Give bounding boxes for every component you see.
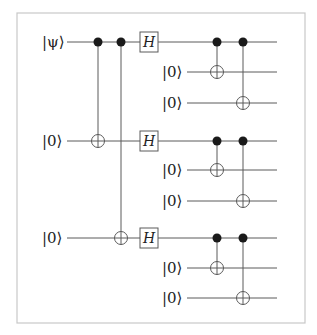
control-dot-icon — [239, 234, 248, 243]
control-dot-icon — [213, 234, 222, 243]
quantum-circuit: |ψ⟩|0⟩|0⟩|0⟩|0⟩|0⟩|0⟩|0⟩|0⟩ HHH — [0, 0, 317, 335]
cnot-gate — [237, 234, 250, 305]
cnot-gate — [237, 137, 250, 208]
target-oplus-icon — [237, 292, 250, 305]
qubit-label: |0⟩ — [162, 161, 182, 179]
qubit-label: |0⟩ — [42, 229, 62, 247]
target-oplus-icon — [237, 195, 250, 208]
diagram-frame — [17, 13, 305, 323]
target-oplus-icon — [211, 164, 224, 177]
cnot-gate — [237, 38, 250, 110]
target-oplus-icon — [211, 262, 224, 275]
qubit-label: |0⟩ — [162, 259, 182, 277]
target-oplus-icon — [237, 97, 250, 110]
control-dot-icon — [213, 38, 222, 47]
qubit-label: |0⟩ — [162, 289, 182, 307]
target-oplus-icon — [211, 66, 224, 79]
qubit-label: |ψ⟩ — [42, 33, 65, 51]
cnot-gate — [211, 234, 224, 275]
hadamard-gate: H — [140, 32, 158, 52]
hadamard-gate: H — [140, 228, 158, 248]
qubit-label: |0⟩ — [42, 132, 62, 150]
control-dot-icon — [213, 137, 222, 146]
control-dot-icon — [94, 38, 103, 47]
cnot-gate — [92, 38, 105, 148]
target-oplus-icon — [92, 135, 105, 148]
qubit-label: |0⟩ — [162, 94, 182, 112]
control-dot-icon — [239, 38, 248, 47]
qubit-label: |0⟩ — [162, 192, 182, 210]
control-dot-icon — [239, 137, 248, 146]
hadamard-gate: H — [140, 131, 158, 151]
qubit-labels: |ψ⟩|0⟩|0⟩|0⟩|0⟩|0⟩|0⟩|0⟩|0⟩ — [42, 33, 182, 307]
gate-label: H — [142, 34, 156, 50]
cnot-gate — [211, 38, 224, 79]
cnot-gate — [211, 137, 224, 177]
target-oplus-icon — [115, 232, 128, 245]
gate-label: H — [142, 230, 156, 246]
qubit-label: |0⟩ — [162, 63, 182, 81]
gate-label: H — [142, 133, 156, 149]
control-dot-icon — [117, 38, 126, 47]
